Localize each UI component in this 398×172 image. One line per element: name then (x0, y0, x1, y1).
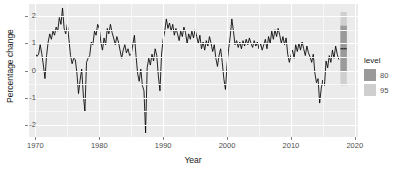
x-tick-mark (163, 137, 164, 140)
legend-entries: 8095 (364, 68, 398, 97)
x-axis-title: Year (28, 155, 358, 165)
x-tick-label: 1970 (15, 141, 55, 150)
gridline-x-minor (131, 4, 132, 137)
legend-entry-label: 80 (380, 71, 388, 80)
y-tick-mark (25, 71, 28, 72)
gridline-y-minor (29, 84, 358, 85)
gridline-x-minor (67, 4, 68, 137)
y-tick-mark (25, 125, 28, 126)
legend-entry[interactable]: 80 (364, 68, 398, 82)
gridline-y-major (29, 16, 358, 17)
gridline-y-major (29, 71, 358, 72)
y-tick-label: 1 (0, 38, 36, 47)
y-tick-mark (25, 16, 28, 17)
x-tick-mark (99, 137, 100, 140)
x-tick-mark (291, 137, 292, 140)
x-tick-mark (355, 137, 356, 140)
y-tick-mark (25, 98, 28, 99)
gridline-x-major (163, 4, 164, 137)
y-tick-label: 0 (0, 66, 36, 75)
gridline-y-major (29, 43, 358, 44)
x-tick-mark (227, 137, 228, 140)
legend-entry-label: 95 (380, 86, 388, 95)
gridline-y-minor (29, 111, 358, 112)
gridline-y-minor (29, 30, 358, 31)
legend-key-swatch (364, 84, 376, 96)
legend: level 8095 (364, 56, 398, 98)
gridline-x-major (99, 4, 100, 137)
y-tick-label: -1 (0, 93, 36, 102)
gridline-x-minor (195, 4, 196, 137)
gridline-y-minor (29, 57, 358, 58)
x-tick-label: 2000 (207, 141, 247, 150)
legend-entry[interactable]: 95 (364, 83, 398, 97)
y-tick-label: 2 (0, 11, 36, 20)
gridline-y-major (29, 125, 358, 126)
chart-root: Percentage change -2-1012 19701980199020… (0, 0, 398, 172)
x-tick-label: 1990 (143, 141, 183, 150)
gridline-x-major (291, 4, 292, 137)
y-tick-label: -2 (0, 120, 36, 129)
gridline-x-minor (323, 4, 324, 137)
legend-title: level (364, 56, 398, 65)
legend-key-swatch (364, 69, 376, 81)
plot-panel (29, 4, 358, 137)
x-tick-label: 1980 (79, 141, 119, 150)
x-tick-label: 2020 (335, 141, 375, 150)
gridline-x-major (227, 4, 228, 137)
gridline-x-major (355, 4, 356, 137)
y-tick-mark (25, 43, 28, 44)
x-tick-mark (35, 137, 36, 140)
gridline-x-minor (259, 4, 260, 137)
gridline-y-major (29, 98, 358, 99)
x-tick-label: 2010 (271, 141, 311, 150)
